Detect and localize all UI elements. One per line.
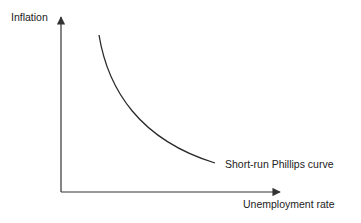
- curve-label: Short-run Phillips curve: [225, 158, 334, 170]
- x-axis-label: Unemployment rate: [243, 198, 335, 210]
- y-axis-label: Inflation: [11, 11, 48, 23]
- phillips-diagram: [0, 0, 361, 223]
- phillips-curve: [99, 35, 215, 163]
